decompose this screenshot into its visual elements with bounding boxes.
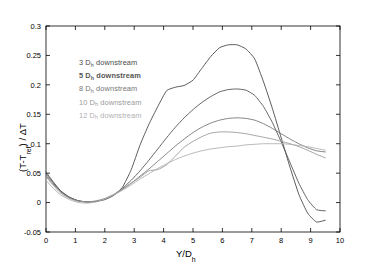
legend-entry-label: downstream	[94, 58, 137, 67]
legend-entry-4: 12 Dh downstream	[79, 111, 142, 120]
y-axis-title-suffix: ) / ΔT	[17, 123, 28, 146]
legend-distance-value: 5 D	[79, 71, 91, 80]
legend-entry-3: 10 Dh downstream	[79, 98, 142, 107]
x-tick-label: 1	[73, 236, 77, 245]
x-tick-label: 2	[103, 236, 107, 245]
legend-entry-label: downstream	[98, 98, 141, 107]
axis-frame	[46, 26, 340, 232]
y-axis-title-prefix: (T-T	[17, 155, 28, 172]
legend-distance-value: 8 D	[79, 84, 91, 93]
x-tick-label: 4	[162, 236, 166, 245]
tick-marks	[46, 26, 340, 232]
series-line-2	[46, 118, 325, 202]
x-axis-title-main: Y/D	[176, 248, 192, 259]
plot-canvas: 012345678910-0.0500.050.10.150.20.250.3	[0, 0, 367, 277]
legend-diameter-subscript: h	[95, 101, 98, 107]
x-tick-label: 6	[220, 236, 224, 245]
x-tick-label: 0	[44, 236, 48, 245]
x-tick-label: 9	[309, 236, 313, 245]
y-tick-label: 0.15	[26, 110, 41, 119]
legend-distance-value: 10 D	[79, 98, 95, 107]
series-line-3	[46, 132, 325, 202]
x-tick-label: 5	[191, 236, 195, 245]
legend-entry-label: downstream	[94, 84, 137, 93]
series-line-4	[46, 144, 325, 203]
y-tick-label: -0.05	[24, 228, 41, 237]
y-axis-title: (T-Tref) / ΔT	[17, 123, 30, 172]
legend-entry-label: downstream	[98, 111, 141, 120]
x-axis-title-subscript: h	[192, 256, 196, 263]
x-tick-label: 3	[132, 236, 136, 245]
legend-diameter-subscript: h	[91, 75, 94, 81]
legend-entry-1: 5 Dh downstream	[79, 71, 141, 80]
legend-entry-2: 8 Dh downstream	[79, 84, 137, 93]
y-tick-label: 0.1	[31, 140, 41, 149]
x-tick-label: 8	[279, 236, 283, 245]
x-tick-label: 10	[336, 236, 344, 245]
legend-diameter-subscript: h	[95, 114, 98, 120]
legend-entry-label: downstream	[94, 71, 141, 80]
y-tick-label: 0.3	[31, 22, 41, 31]
legend-diameter-subscript: h	[91, 88, 94, 94]
y-axis-title-subscript: ref	[25, 146, 32, 154]
x-axis-title: Y/Dh	[176, 248, 196, 261]
legend-distance-value: 3 D	[79, 58, 91, 67]
legend-entry-0: 3 Dh downstream	[79, 58, 137, 67]
y-tick-label: 0.25	[26, 51, 41, 60]
legend-distance-value: 12 D	[79, 111, 95, 120]
x-tick-label: 7	[250, 236, 254, 245]
chart-figure: 012345678910-0.0500.050.10.150.20.250.3 …	[0, 0, 367, 277]
legend-diameter-subscript: h	[91, 62, 94, 68]
y-tick-label: 0.2	[31, 81, 41, 90]
tick-labels: 012345678910-0.0500.050.10.150.20.250.3	[24, 22, 344, 245]
y-tick-label: 0	[37, 198, 41, 207]
plot-border	[46, 26, 340, 232]
series-line-1	[46, 89, 325, 211]
